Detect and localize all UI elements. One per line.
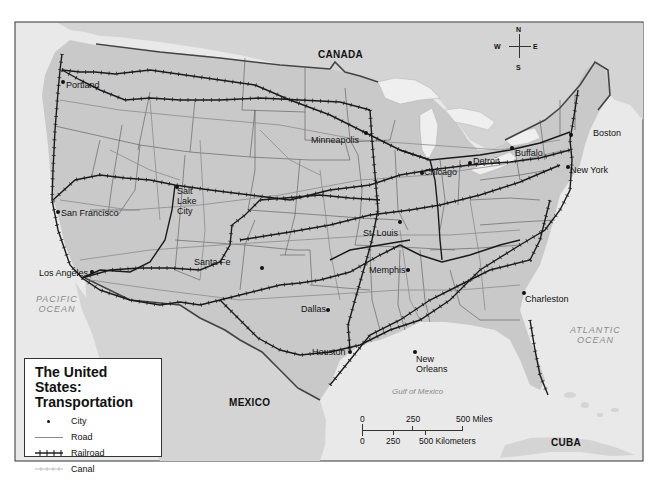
canal-line-icon xyxy=(35,464,63,474)
legend-label-railroad: Railroad xyxy=(71,448,105,458)
compass-south: S xyxy=(516,64,521,71)
scale-miles-250: 250 xyxy=(406,414,420,424)
city-label-portland: Portland xyxy=(66,80,100,90)
scale-tick xyxy=(425,430,426,435)
road-line-icon xyxy=(35,432,63,442)
no-line1: New xyxy=(416,354,448,364)
slc-line2: Lake xyxy=(177,196,197,206)
legend-label-canal: Canal xyxy=(71,464,95,474)
no-line2: Orleans xyxy=(416,364,448,374)
city-label-houston: Houston xyxy=(312,347,346,357)
legend-box: The United States: Transportation City R… xyxy=(24,358,162,457)
city-label-dallas: Dallas xyxy=(301,304,326,314)
city-label-charleston: Charleston xyxy=(525,294,569,304)
city-label-memphis: Memphis xyxy=(369,265,406,275)
city-label-minneapolis: Minneapolis xyxy=(311,135,359,145)
city-label-salt-lake-city: Salt Lake City xyxy=(177,186,197,216)
city-label-santa-fe: Santa Fe xyxy=(194,257,231,267)
scale-tick xyxy=(462,426,463,431)
city-label-chicago: Chicago xyxy=(424,167,457,177)
scale-tick xyxy=(393,430,394,435)
country-label-mexico: MEXICO xyxy=(229,398,270,408)
pacific-line1: PACIFIC xyxy=(36,294,78,304)
railroad-line-icon xyxy=(35,448,63,458)
city-label-san-francisco: San Francisco xyxy=(61,208,119,218)
legend-item-road: Road xyxy=(35,429,151,445)
city-label-boston: Boston xyxy=(593,128,621,138)
gulf-label: Gulf of Mexico xyxy=(392,387,443,397)
city-label-los-angeles: Los Angeles xyxy=(39,268,88,278)
scale-tick xyxy=(412,426,413,431)
atlantic-line2: OCEAN xyxy=(570,335,621,345)
legend-item-city: City xyxy=(35,413,151,429)
scale-miles-0: 0 xyxy=(360,414,365,424)
city-label-st-louis: St. Louis xyxy=(363,228,398,238)
city-dot-icon xyxy=(35,416,63,426)
city-label-buffalo: Buffalo xyxy=(515,148,543,158)
scale-miles-500: 500 Miles xyxy=(456,414,492,424)
compass-rose xyxy=(505,28,535,64)
compass-ew-line xyxy=(509,46,531,47)
compass-north: N xyxy=(516,26,521,33)
legend-label-city: City xyxy=(71,416,87,426)
legend-item-canal: Canal xyxy=(35,461,151,477)
atlantic-line1: ATLANTIC xyxy=(570,325,621,335)
pacific-line2: OCEAN xyxy=(36,304,78,314)
country-label-canada: CANADA xyxy=(318,50,363,60)
scale-tick xyxy=(362,424,363,436)
slc-line3: City xyxy=(177,206,197,216)
ocean-label-atlantic: ATLANTIC OCEAN xyxy=(570,325,621,345)
city-label-new-orleans: New Orleans xyxy=(416,354,448,374)
map-title-line1: The United States: xyxy=(35,365,151,395)
country-label-cuba: CUBA xyxy=(551,438,581,448)
scale-km-500: 500 Kilometers xyxy=(419,436,476,446)
slc-line1: Salt xyxy=(177,186,197,196)
scale-km-0: 0 xyxy=(360,436,365,446)
legend-item-railroad: Railroad xyxy=(35,445,151,461)
scale-km-250: 250 xyxy=(386,436,400,446)
legend-label-road: Road xyxy=(71,432,93,442)
map-title-line2: Transportation xyxy=(35,395,151,410)
city-label-detroit: Detroit xyxy=(473,156,500,166)
compass-west: W xyxy=(494,43,501,50)
city-label-new-york: New York xyxy=(570,165,608,175)
compass-east: E xyxy=(533,43,538,50)
ocean-label-pacific: PACIFIC OCEAN xyxy=(36,294,78,314)
